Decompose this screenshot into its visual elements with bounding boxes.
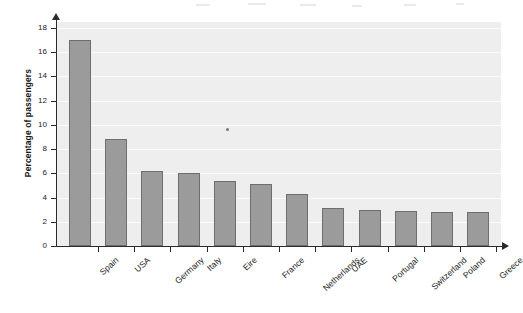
gridline bbox=[57, 76, 501, 77]
y-tick bbox=[51, 76, 56, 77]
y-tick bbox=[51, 173, 56, 174]
x-tick bbox=[170, 247, 171, 252]
bar-eire bbox=[214, 181, 236, 246]
x-axis-arrow-icon bbox=[502, 242, 509, 250]
x-axis-label-eire: Eire bbox=[241, 255, 259, 273]
x-tick bbox=[98, 247, 99, 252]
y-axis-arrow-icon bbox=[52, 13, 60, 20]
x-tick bbox=[207, 247, 208, 252]
y-tick bbox=[51, 222, 56, 223]
bar-france bbox=[250, 184, 272, 246]
bar-uae bbox=[322, 208, 344, 246]
bar-switzerland bbox=[395, 211, 417, 246]
x-tick bbox=[424, 247, 425, 252]
y-tick bbox=[51, 101, 56, 102]
bar-germany bbox=[141, 171, 163, 246]
bar-poland bbox=[431, 212, 453, 246]
x-tick bbox=[243, 247, 244, 252]
y-tick-label: 4 bbox=[26, 193, 47, 202]
gridline bbox=[57, 125, 501, 126]
y-tick-label: 8 bbox=[26, 144, 47, 153]
bar-usa bbox=[105, 139, 127, 246]
x-axis-label-france: France bbox=[280, 255, 306, 280]
y-tick-label: 2 bbox=[26, 217, 47, 226]
y-tick-label: 10 bbox=[26, 120, 47, 129]
x-axis-label-italy: Italy bbox=[205, 255, 223, 273]
y-tick-label: 16 bbox=[26, 47, 47, 56]
bar-portugal bbox=[359, 210, 381, 246]
y-tick-label: 12 bbox=[26, 96, 47, 105]
x-axis-label-greece: Greece bbox=[497, 255, 523, 281]
x-axis-label-germany: Germany bbox=[173, 255, 206, 286]
bar-italy bbox=[178, 173, 200, 246]
scan-speck bbox=[226, 128, 229, 131]
y-tick bbox=[51, 28, 56, 29]
x-tick bbox=[315, 247, 316, 252]
y-tick-label: 0 bbox=[26, 241, 47, 250]
gridline bbox=[57, 101, 501, 102]
y-tick bbox=[51, 52, 56, 53]
y-tick bbox=[51, 149, 56, 150]
scan-artifact-band bbox=[0, 0, 523, 12]
x-axis-label-usa: USA bbox=[133, 255, 153, 274]
y-tick bbox=[51, 125, 56, 126]
y-tick-label: 6 bbox=[26, 168, 47, 177]
x-tick bbox=[134, 247, 135, 252]
x-tick bbox=[279, 247, 280, 252]
y-tick bbox=[51, 198, 56, 199]
x-tick bbox=[460, 247, 461, 252]
x-axis-label-portugal: Portugal bbox=[390, 255, 420, 284]
gridline bbox=[57, 28, 501, 29]
x-tick bbox=[388, 247, 389, 252]
bar-greece bbox=[467, 212, 489, 246]
x-axis-label-spain: Spain bbox=[98, 255, 121, 277]
y-tick-label: 14 bbox=[26, 71, 47, 80]
y-axis-line bbox=[56, 18, 57, 246]
x-tick bbox=[351, 247, 352, 252]
bar-spain bbox=[69, 40, 91, 246]
gridline bbox=[57, 52, 501, 53]
y-tick bbox=[51, 246, 56, 247]
x-tick bbox=[496, 247, 497, 252]
bar-chart-figure: Percentage of passengers 024681012141618… bbox=[0, 0, 523, 313]
bar-netherlands bbox=[286, 194, 308, 246]
y-tick-label: 18 bbox=[26, 23, 47, 32]
